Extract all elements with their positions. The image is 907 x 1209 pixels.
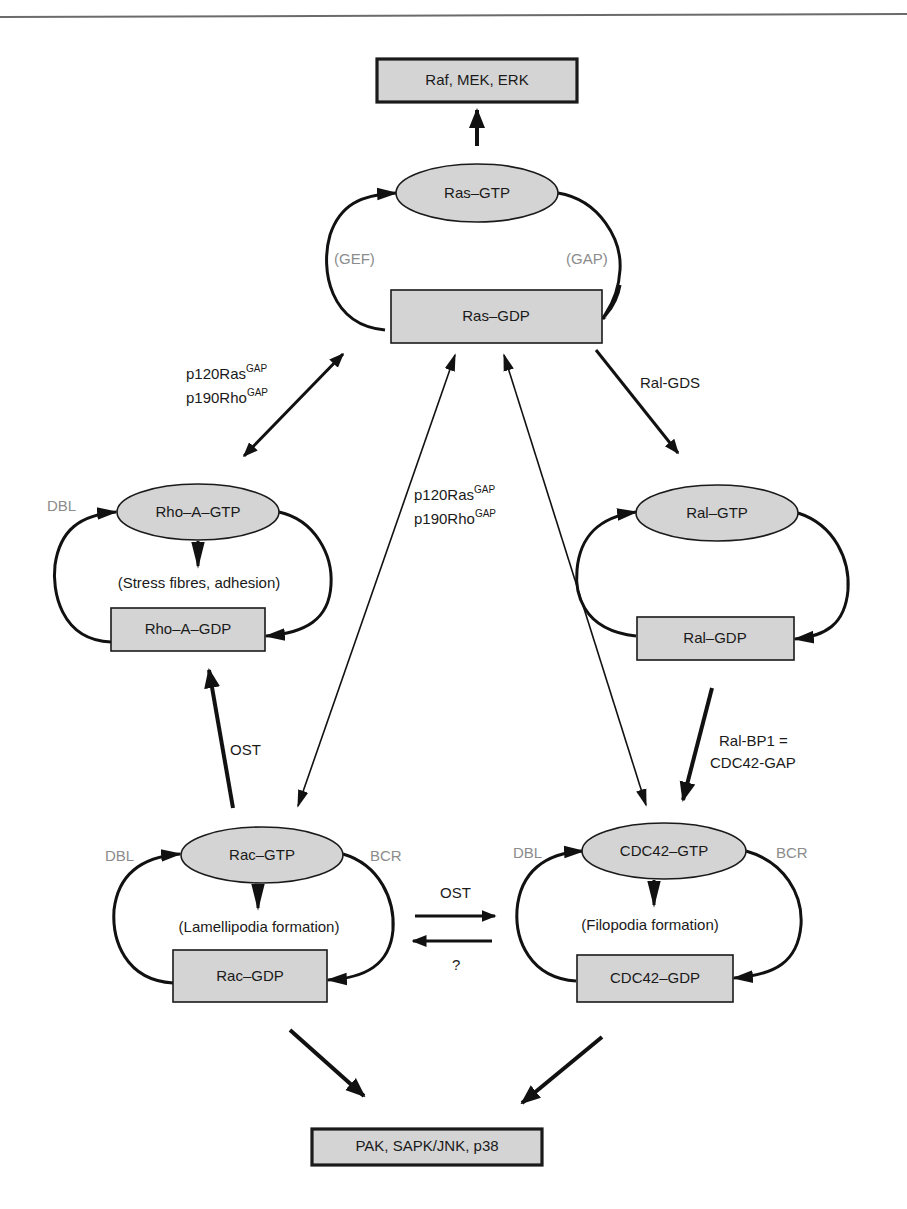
cdc42-gdp-node: CDC42–GDP xyxy=(577,955,733,1002)
ras-cdc42-double-arrow xyxy=(504,355,646,805)
cdc42-gtp-node: CDC42–GTP xyxy=(582,823,746,879)
ral-gdp-label: Ral–GDP xyxy=(683,629,746,646)
ral-bp1-label-line1: Ral-BP1 = xyxy=(719,732,788,749)
rac-dbl-label: DBL xyxy=(105,847,134,864)
rho-a-gdp-node: Rho–A–GDP xyxy=(111,608,265,651)
rac-gtp-node: Rac–GTP xyxy=(181,827,343,883)
signaling-pathway-diagram: Raf, MEK, ERK Ras–GTP Ras–GDP (GEF) (GAP… xyxy=(0,0,907,1209)
ras-gap-label: (GAP) xyxy=(566,250,608,267)
cdc42-to-rac-label: ? xyxy=(452,956,460,973)
ras-gdp-node: Ras–GDP xyxy=(391,290,602,343)
ras-rac-double-arrow xyxy=(298,355,455,806)
center-label-line2: p190RhoGAP xyxy=(414,508,496,527)
ral-gds-label: Ral-GDS xyxy=(640,374,700,391)
rac-bcr-label: BCR xyxy=(370,847,402,864)
rac-to-pak-arrow xyxy=(290,1030,364,1096)
ral-bp1-label-line2: CDC42-GAP xyxy=(710,754,796,771)
raf-mek-erk-node: Raf, MEK, ERK xyxy=(377,59,577,102)
raf-mek-erk-label: Raf, MEK, ERK xyxy=(425,71,528,88)
rho-effect-label: (Stress fibres, adhesion) xyxy=(118,574,281,591)
ral-gtp-node: Ral–GTP xyxy=(636,485,798,541)
rho-a-gtp-label: Rho–A–GTP xyxy=(155,503,240,520)
rho-a-gtp-node: Rho–A–GTP xyxy=(117,484,279,540)
ral-to-cdc42-arrow xyxy=(683,688,712,800)
cdc42-dbl-loop-arrow xyxy=(517,851,583,981)
pak-sapk-jnk-p38-node: PAK, SAPK/JNK, p38 xyxy=(312,1129,542,1165)
rac-to-cdc42-label: OST xyxy=(440,884,471,901)
cdc42-gdp-label: CDC42–GDP xyxy=(610,969,700,986)
rac-gdp-node: Rac–GDP xyxy=(173,950,327,1002)
rac-gdp-label: Rac–GDP xyxy=(216,967,284,984)
rac-gtp-label: Rac–GTP xyxy=(229,846,295,863)
rho-dbl-label: DBL xyxy=(47,497,76,514)
rac-effect-label: (Lamellipodia formation) xyxy=(179,918,340,935)
cdc42-dbl-label: DBL xyxy=(513,844,542,861)
ras-gdp-label: Ras–GDP xyxy=(462,307,530,324)
ral-gef-loop-arrow xyxy=(577,512,636,636)
ras-gtp-label: Ras–GTP xyxy=(444,184,510,201)
cdc42-effect-label: (Filopodia formation) xyxy=(581,916,719,933)
cdc42-to-pak-arrow xyxy=(522,1037,602,1103)
cdc42-gtp-label: CDC42–GTP xyxy=(620,842,708,859)
center-label-line1: p120RasGAP xyxy=(414,484,495,503)
rho-dbl-loop-arrow xyxy=(54,512,116,642)
pak-sapk-jnk-p38-label: PAK, SAPK/JNK, p38 xyxy=(355,1137,498,1154)
rac-bcr-loop-arrow xyxy=(328,854,393,980)
rac-dbl-loop-arrow xyxy=(114,854,180,983)
ral-gtp-label: Ral–GTP xyxy=(686,504,748,521)
header-rule xyxy=(0,14,907,17)
ras-rho-label-line1: p120RasGAP xyxy=(186,363,267,382)
ral-gap-loop-arrow xyxy=(795,513,848,639)
cdc42-bcr-label: BCR xyxy=(776,844,808,861)
ras-gtp-node: Ras–GTP xyxy=(396,164,558,222)
rho-a-gdp-label: Rho–A–GDP xyxy=(145,620,232,637)
ras-gef-label: (GEF) xyxy=(334,250,375,267)
cdc42-bcr-loop-arrow xyxy=(734,851,801,978)
rac-to-rho-arrow xyxy=(209,670,233,808)
ras-rho-label-line2: p190RhoGAP xyxy=(186,387,268,406)
ras-to-ral-arrow xyxy=(596,350,678,453)
ral-gdp-node: Ral–GDP xyxy=(637,617,794,660)
rac-to-rho-label: OST xyxy=(230,741,261,758)
